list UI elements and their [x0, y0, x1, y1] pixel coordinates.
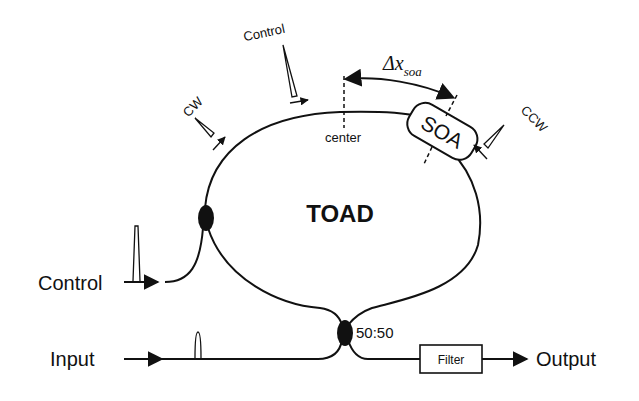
filter-label: Filter: [438, 353, 465, 367]
cw-pulse-icon: [195, 118, 214, 137]
main-coupler: [337, 320, 353, 346]
control-direction-arrow: [290, 100, 308, 103]
control-pulse-icon: [283, 45, 297, 97]
control-input-pulse-icon: [133, 226, 140, 281]
fiber-loop: [160, 112, 480, 359]
input-pulse-icon: [195, 332, 201, 358]
cw-label: CW: [180, 93, 206, 119]
cw-direction-arrow: [213, 137, 225, 150]
control-coupler: [198, 205, 214, 231]
delta-x-label: Δxsoa: [382, 52, 422, 79]
output-label: Output: [536, 348, 596, 370]
coupler-ratio-label: 50:50: [356, 324, 394, 341]
control-input-label: Control: [38, 272, 102, 294]
toad-diagram: SOA center Δxsoa TOAD Control CW CCW Con…: [0, 0, 639, 401]
input-label: Input: [50, 348, 95, 370]
ccw-label: CCW: [518, 103, 551, 136]
soa-edge-marker: [424, 147, 432, 164]
center-label: center: [325, 130, 362, 145]
delta-x-arrow: [347, 78, 452, 97]
ccw-direction-arrow: [474, 145, 487, 159]
soa-block: SOA: [402, 98, 482, 165]
ccw-pulse-icon: [484, 125, 504, 148]
control-top-label: Control: [242, 21, 286, 44]
toad-title: TOAD: [306, 200, 374, 227]
